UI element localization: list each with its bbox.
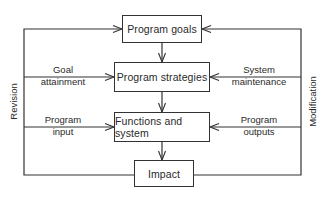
- impact-label: Impact: [148, 168, 180, 180]
- program-outputs-label: Program outputs: [228, 114, 290, 138]
- revision-label: Revision: [8, 80, 19, 124]
- program-goals-box: Program goals: [122, 15, 202, 43]
- modification-loop-line: [194, 29, 301, 175]
- program-strategies-box: Program strategies: [114, 62, 210, 92]
- goal-attainment-label: Goal attainment: [38, 64, 88, 88]
- program-goals-label: Program goals: [127, 23, 197, 35]
- functions-and-system-label: Functions and system: [115, 115, 209, 139]
- functions-and-system-box: Functions and system: [114, 112, 210, 142]
- system-maintenance-label: System maintenance: [228, 64, 290, 88]
- revision-loop-line: [24, 29, 134, 175]
- program-strategies-label: Program strategies: [117, 71, 208, 83]
- impact-box: Impact: [134, 160, 194, 187]
- program-input-label: Program input: [38, 114, 88, 138]
- modification-label: Modification: [307, 70, 318, 134]
